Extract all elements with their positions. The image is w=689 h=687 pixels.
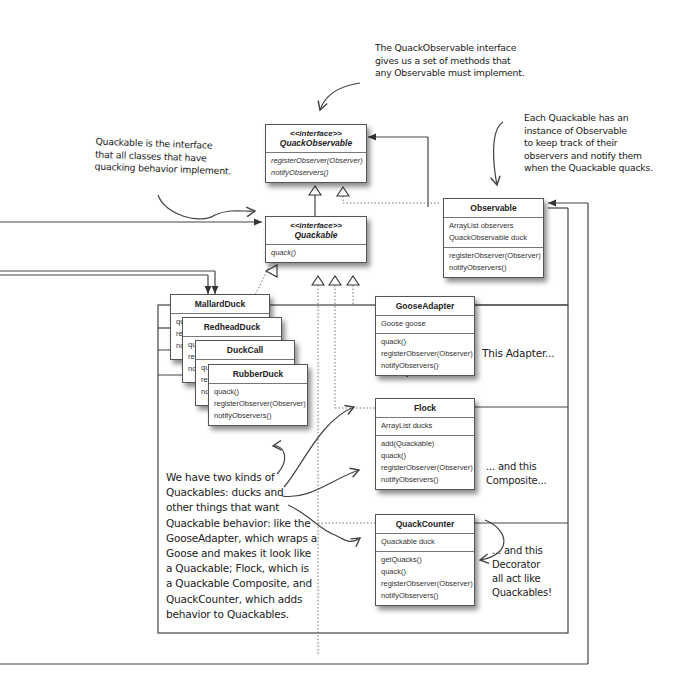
methods-section: registerObserver(Observer) notifyObserve… — [266, 153, 366, 182]
class-header: <<interface>> Quackable — [266, 217, 366, 245]
class-gooseadapter[interactable]: GooseAdapter Goose goose quack() registe… — [375, 296, 475, 376]
note-adapter: This Adapter... — [482, 347, 555, 360]
class-quackobservable[interactable]: <<interface>> QuackObservable registerOb… — [265, 124, 367, 183]
methods-section: registerObserver(Observer) notifyObserve… — [444, 248, 543, 277]
attributes-section: Goose goose — [376, 316, 474, 334]
class-flock[interactable]: Flock ArrayList ducks add(Quackable) qua… — [375, 398, 475, 490]
methods-section: add(Quackable) quack() registerObserver(… — [376, 436, 474, 489]
note-composite: ... and this Composite... — [486, 460, 547, 488]
class-header: Observable — [444, 199, 543, 218]
class-rubberduck[interactable]: RubberDuck quack() registerObserver(Obse… — [208, 364, 308, 426]
methods-section: quack() registerObserver(Observer) notif… — [209, 384, 307, 425]
attributes-section: ArrayList ducks — [376, 418, 474, 436]
note-two-kinds: We have two kinds of Quackables: ducks a… — [166, 470, 317, 622]
attributes-section: ArrayList observers QuackObservable duck — [444, 218, 543, 248]
methods-section: quack() — [266, 245, 366, 262]
class-quackable[interactable]: <<interface>> Quackable quack() — [265, 216, 367, 263]
class-header: <<interface>> QuackObservable — [266, 125, 366, 153]
note-quackobservable: The QuackObservable interface gives us a… — [375, 42, 525, 80]
connector-lines — [0, 0, 689, 687]
methods-section: quack() registerObserver(Observer) notif… — [376, 334, 474, 375]
methods-section: getQuacks() quack() registerObserver(Obs… — [376, 552, 474, 605]
note-quackable: Quackable is the interface that all clas… — [94, 136, 232, 178]
attributes-section: Quackable duck — [376, 534, 474, 552]
note-observable: Each Quackable has an instance of Observ… — [524, 112, 653, 175]
note-decorator: ... and this Decorator all act like Quac… — [492, 544, 552, 600]
class-observable[interactable]: Observable ArrayList observers QuackObse… — [443, 198, 544, 278]
class-quackcounter[interactable]: QuackCounter Quackable duck getQuacks() … — [375, 514, 475, 606]
